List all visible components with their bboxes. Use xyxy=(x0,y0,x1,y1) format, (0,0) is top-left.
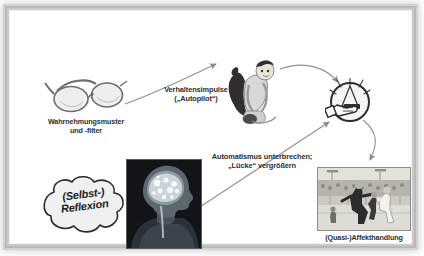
eyeglasses-icon xyxy=(44,70,128,116)
perception-caption: Wahrnehmungsmuster und -filter xyxy=(30,118,142,136)
slide-frame: Wahrnehmungsmuster und -filter xyxy=(9,10,412,244)
thought-cloud-icon: (Selbst-) Reflexion xyxy=(34,174,132,236)
brawl-photo xyxy=(318,168,410,230)
diagram-canvas: Wahrnehmungsmuster und -filter xyxy=(26,28,417,250)
hand-detonator-circle-icon xyxy=(325,78,371,124)
brain-head-xray-photo xyxy=(127,160,201,248)
affect-action-caption: (Quasi-)Affekthandlung xyxy=(304,234,424,243)
automatism-arrow-label: Automatismus unterbrechen; „Lücke“ vergr… xyxy=(192,152,332,170)
arrow-trigger-to-action xyxy=(363,120,375,160)
impulse-arrow-label: Verhaltensimpulse („Autopilot“) xyxy=(144,85,248,103)
